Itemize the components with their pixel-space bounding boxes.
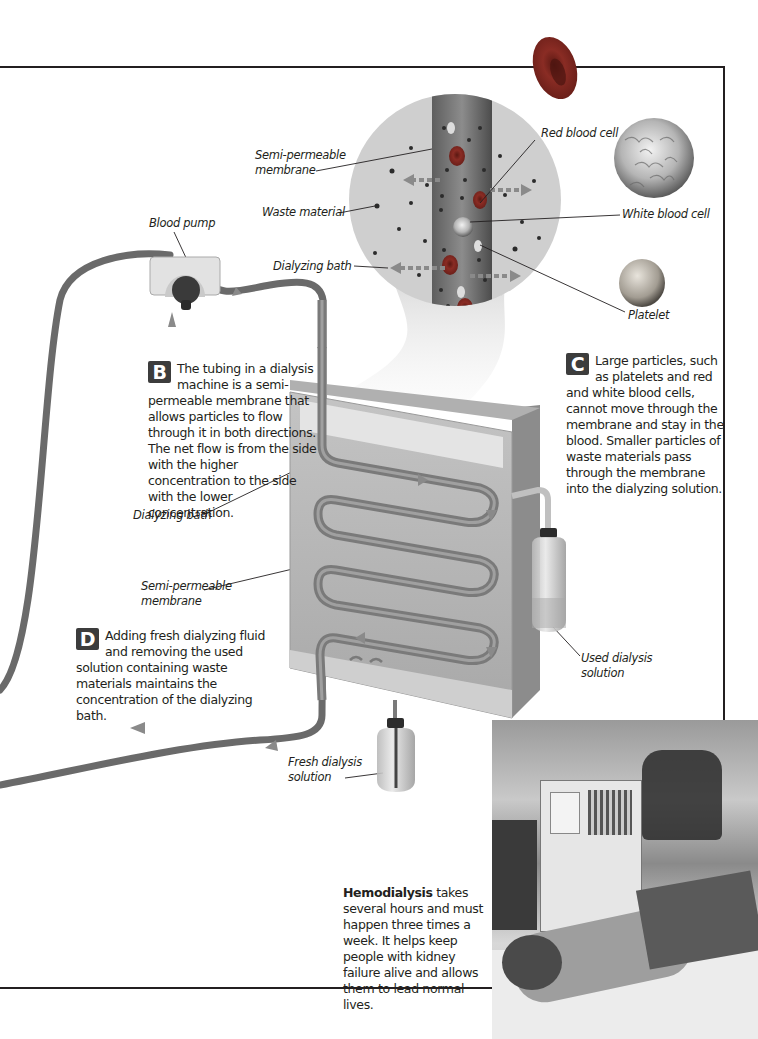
used-solution-bottle [532, 528, 566, 632]
label-line: Semi-permeable [255, 148, 346, 163]
hemodialysis-photo [492, 720, 758, 1039]
callout-c-badge: C [566, 353, 589, 375]
fresh-solution-bottle [377, 700, 415, 792]
label-semi-permeable-membrane-top: Semi-permeable membrane [255, 148, 346, 178]
callout-d: D Adding fresh dialyzing fluid and remov… [76, 628, 286, 724]
label-line: solution [288, 770, 362, 785]
callout-c-text: Large particles, such as platelets and r… [566, 353, 724, 496]
caption-term: Hemodialysis [343, 885, 433, 900]
label-waste-material: Waste material [262, 205, 345, 220]
blood-pump-image [150, 257, 220, 310]
callout-b-text: The tubing in a dialysis machine is a se… [148, 361, 316, 520]
caption-text: takes several hours and must happen thre… [343, 885, 483, 1012]
red-blood-cell-image [525, 31, 585, 105]
label-line: membrane [141, 594, 232, 609]
label-semi-permeable-membrane-left: Semi-permeable membrane [141, 579, 232, 609]
label-white-blood-cell: White blood cell [622, 207, 710, 222]
callout-d-badge: D [76, 628, 99, 650]
label-dialyzing-bath-top: Dialyzing bath [273, 259, 352, 274]
callout-c: C Large particles, such as platelets and… [566, 353, 726, 497]
label-used-dialysis-solution: Used dialysis solution [581, 651, 652, 681]
label-line: Semi-permeable [141, 579, 232, 594]
label-blood-pump: Blood pump [149, 216, 215, 231]
label-line: solution [581, 666, 652, 681]
callout-b-badge: B [148, 361, 171, 383]
label-line: membrane [255, 163, 346, 178]
callout-b: B The tubing in a dialysis machine is a … [148, 361, 318, 521]
label-line: Fresh dialysis [288, 755, 362, 770]
label-line: Used dialysis [581, 651, 652, 666]
callout-d-text: Adding fresh dialyzing fluid and removin… [76, 628, 265, 723]
photo-caption: Hemodialysis takes several hours and mus… [343, 885, 488, 1013]
label-fresh-dialysis-solution: Fresh dialysis solution [288, 755, 362, 785]
label-platelet: Platelet [628, 308, 669, 323]
label-red-blood-cell: Red blood cell [541, 126, 618, 141]
